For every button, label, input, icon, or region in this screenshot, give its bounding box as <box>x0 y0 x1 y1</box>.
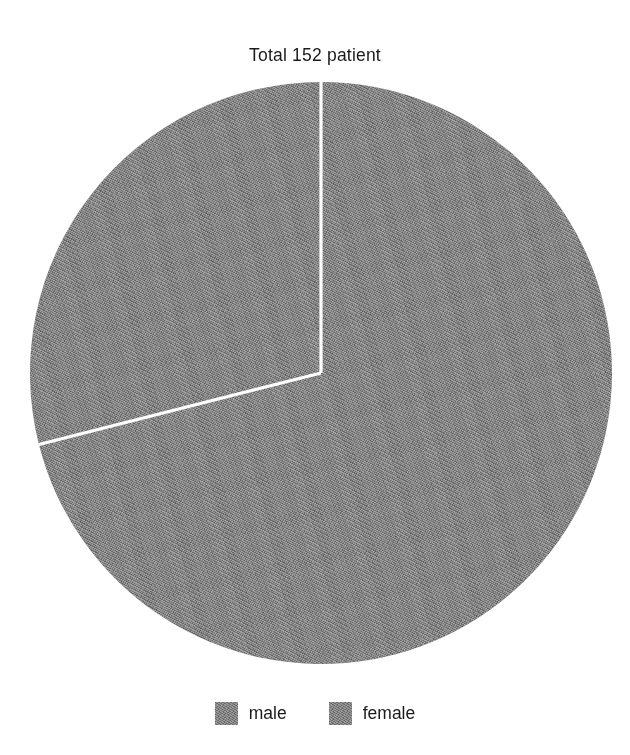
legend-swatch-male <box>215 702 238 725</box>
legend-label-male: male <box>249 703 287 723</box>
chart-legend: male female <box>0 698 630 728</box>
legend-swatch-female <box>329 702 352 725</box>
pie-svg <box>0 0 630 690</box>
legend-item-male[interactable]: male <box>215 702 287 725</box>
pie-chart-figure: Total 152 patient male female <box>0 0 630 755</box>
legend-item-female[interactable]: female <box>329 702 416 725</box>
legend-label-female: female <box>363 703 416 723</box>
pie-plot-area <box>0 0 630 690</box>
